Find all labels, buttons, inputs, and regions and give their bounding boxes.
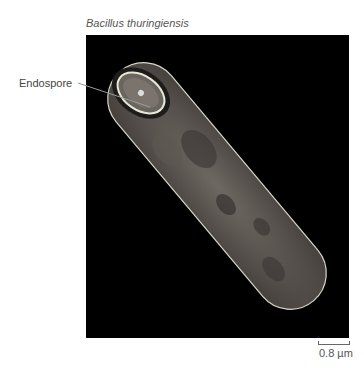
endospore-label: Endospore bbox=[19, 77, 72, 89]
scale-bar-label: 0.8 µm bbox=[319, 347, 353, 359]
leader-line bbox=[0, 0, 364, 368]
scale-bar bbox=[318, 341, 350, 345]
